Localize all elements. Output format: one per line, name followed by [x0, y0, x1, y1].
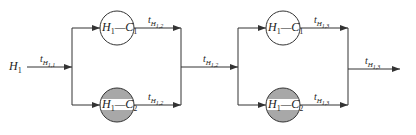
edge-label-input: tH1,1	[40, 54, 55, 68]
node-text-s1-c2: H1—C2	[102, 98, 137, 113]
node-text-s1-c1: H1—C1	[102, 21, 137, 36]
edge-label-middle: tH1,2	[203, 54, 218, 68]
node-text-s2-c1: H1—C1	[268, 21, 303, 36]
edge-label-output: tH1,3	[365, 56, 380, 70]
edge-label-s1-top: tH1,2	[148, 15, 163, 29]
edge-label-s2-bottom: tH1,3	[314, 92, 329, 106]
input-label: H1	[9, 60, 22, 75]
node-text-s2-c2: H1—C2	[268, 98, 303, 113]
edge-label-s2-top: tH1,3	[314, 15, 329, 29]
edge-label-s1-bottom: tH1,2	[148, 92, 163, 106]
